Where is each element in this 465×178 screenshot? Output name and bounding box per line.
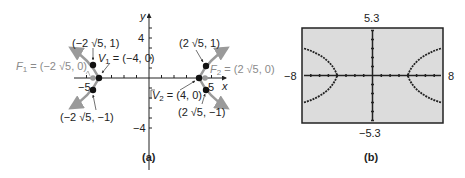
caption-a: (a) — [142, 151, 156, 163]
panel-a: y x 4 −4 −5 5 (−2 √5, 1) — [16, 10, 275, 170]
point-bottom-left — [90, 87, 96, 93]
label-focus-f1: F1 = (−2 √5, 0) — [16, 60, 87, 74]
figure: y x 4 −4 −5 5 (−2 √5, 1) — [0, 0, 465, 178]
y-axis-label: y — [139, 10, 147, 22]
point-top-right — [203, 63, 209, 69]
focus-f2-point — [202, 75, 208, 81]
label-vertex-v2: V2 = (4, 0) — [152, 89, 202, 103]
b-ymin-label: −5.3 — [359, 127, 381, 139]
point-top-left — [90, 62, 96, 68]
label-point-bottom-left: (−2 √5, −1) — [60, 111, 114, 123]
caption-b: (b) — [364, 151, 378, 163]
vertex-v2-point — [196, 75, 202, 81]
vertex-v1-point — [96, 75, 102, 81]
label-point-bottom-right: (2 √5, −1) — [178, 106, 225, 118]
y-tick-neg4: −4 — [133, 122, 146, 134]
y-tick-4: 4 — [138, 32, 144, 44]
b-ymax-label: 5.3 — [364, 12, 379, 24]
label-point-top-right: (2 √5, 1) — [179, 37, 220, 49]
b-xmin-label: −8 — [284, 70, 297, 82]
label-focus-f2: F2 = (2 √5, 0) — [210, 63, 275, 77]
point-bottom-right — [203, 87, 209, 93]
x-axis-label: x — [221, 80, 228, 92]
label-point-top-left: (−2 √5, 1) — [72, 37, 119, 49]
panel-b: 5.3 −5.3 −8 8 (b) — [284, 12, 454, 163]
b-xmax-label: 8 — [448, 70, 454, 82]
focus-f1-point — [90, 75, 96, 81]
x-tick-neg5: −5 — [78, 81, 91, 93]
label-vertex-v1: V1 = (−4, 0) — [98, 52, 154, 66]
